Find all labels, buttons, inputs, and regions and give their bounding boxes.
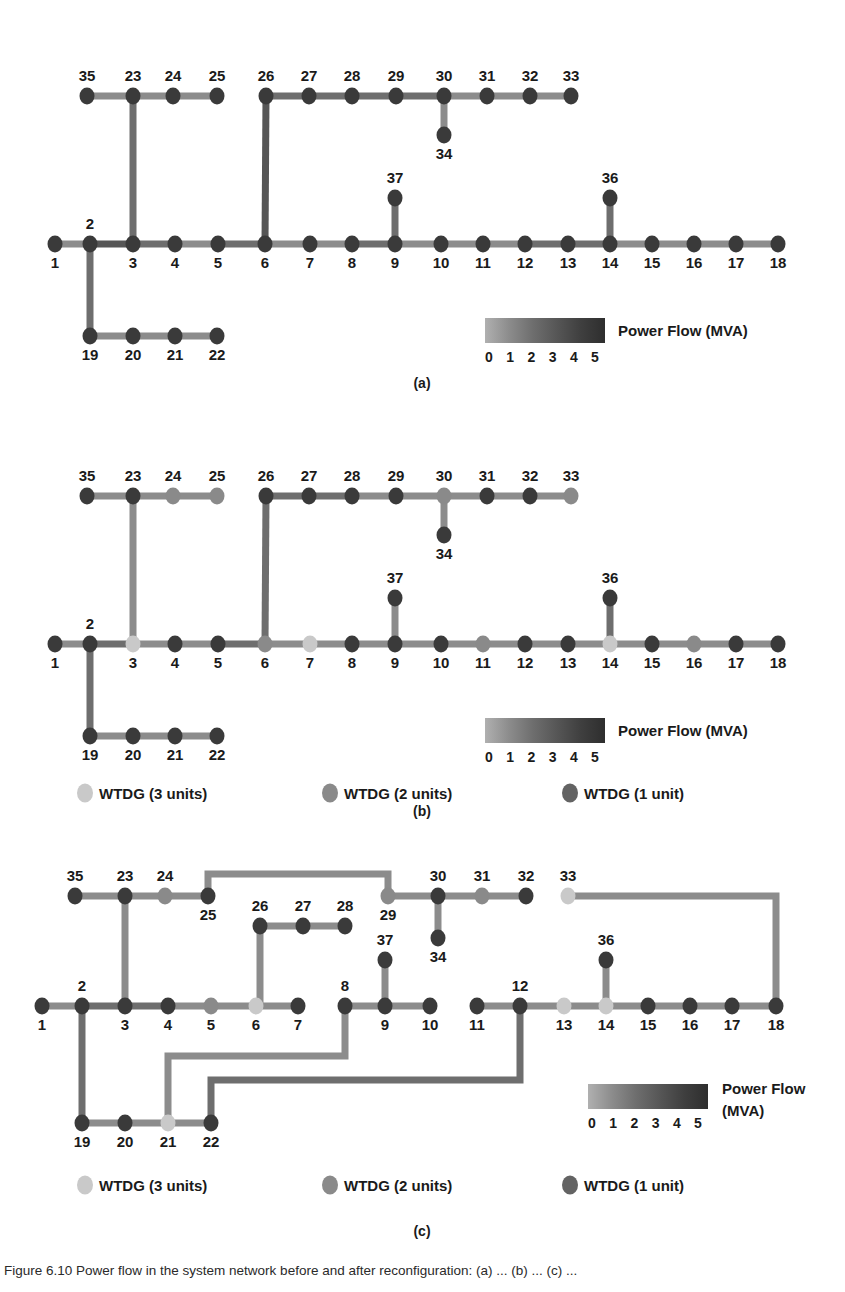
bus-node-9[interactable]: [388, 236, 403, 253]
bus-node-11[interactable]: [476, 636, 491, 653]
bus-node-25[interactable]: [201, 888, 216, 905]
bus-node-31[interactable]: [475, 888, 490, 905]
bus-node-33[interactable]: [564, 88, 579, 105]
bus-node-14[interactable]: [603, 636, 618, 653]
bus-node-18[interactable]: [771, 636, 786, 653]
bus-node-3[interactable]: [126, 236, 141, 253]
bus-node-14[interactable]: [603, 236, 618, 253]
bus-node-35[interactable]: [68, 888, 83, 905]
bus-node-23[interactable]: [126, 488, 141, 505]
bus-node-15[interactable]: [645, 236, 660, 253]
bus-node-11[interactable]: [470, 998, 485, 1015]
bus-node-26[interactable]: [253, 918, 268, 935]
bus-node-16[interactable]: [687, 236, 702, 253]
bus-node-15[interactable]: [641, 998, 656, 1015]
bus-node-30[interactable]: [431, 888, 446, 905]
bus-node-12[interactable]: [513, 998, 528, 1015]
bus-node-15[interactable]: [645, 636, 660, 653]
bus-node-10[interactable]: [434, 636, 449, 653]
bus-node-5[interactable]: [211, 636, 226, 653]
bus-node-18[interactable]: [769, 998, 784, 1015]
bus-node-35[interactable]: [80, 88, 95, 105]
bus-node-17[interactable]: [729, 636, 744, 653]
bus-node-8[interactable]: [345, 236, 360, 253]
bus-node-6[interactable]: [258, 236, 273, 253]
bus-node-31[interactable]: [480, 488, 495, 505]
bus-node-8[interactable]: [338, 998, 353, 1015]
bus-node-7[interactable]: [303, 236, 318, 253]
bus-node-32[interactable]: [519, 888, 534, 905]
bus-node-27[interactable]: [296, 918, 311, 935]
bus-node-29[interactable]: [389, 88, 404, 105]
bus-node-28[interactable]: [338, 918, 353, 935]
bus-node-23[interactable]: [126, 88, 141, 105]
bus-node-26[interactable]: [259, 488, 274, 505]
bus-node-4[interactable]: [161, 998, 176, 1015]
bus-node-16[interactable]: [687, 636, 702, 653]
bus-node-24[interactable]: [166, 88, 181, 105]
bus-node-24[interactable]: [158, 888, 173, 905]
bus-node-22[interactable]: [210, 728, 225, 745]
bus-node-19[interactable]: [83, 728, 98, 745]
bus-node-1[interactable]: [48, 236, 63, 253]
bus-node-12[interactable]: [518, 236, 533, 253]
bus-node-19[interactable]: [75, 1115, 90, 1132]
bus-node-1[interactable]: [35, 998, 50, 1015]
bus-node-27[interactable]: [302, 88, 317, 105]
bus-node-2[interactable]: [83, 236, 98, 253]
bus-node-33[interactable]: [561, 888, 576, 905]
bus-node-22[interactable]: [210, 328, 225, 345]
bus-node-6[interactable]: [258, 636, 273, 653]
bus-node-4[interactable]: [168, 236, 183, 253]
bus-node-34[interactable]: [431, 930, 446, 947]
bus-node-24[interactable]: [166, 488, 181, 505]
bus-node-37[interactable]: [378, 952, 393, 969]
bus-node-8[interactable]: [345, 636, 360, 653]
bus-node-37[interactable]: [388, 190, 403, 207]
bus-node-27[interactable]: [302, 488, 317, 505]
bus-node-36[interactable]: [603, 590, 618, 607]
bus-node-34[interactable]: [437, 127, 452, 144]
bus-node-35[interactable]: [80, 488, 95, 505]
bus-node-5[interactable]: [204, 998, 219, 1015]
bus-node-2[interactable]: [75, 998, 90, 1015]
bus-node-29[interactable]: [389, 488, 404, 505]
bus-node-32[interactable]: [523, 88, 538, 105]
bus-node-7[interactable]: [291, 998, 306, 1015]
bus-node-3[interactable]: [126, 636, 141, 653]
bus-node-28[interactable]: [345, 88, 360, 105]
bus-node-11[interactable]: [476, 236, 491, 253]
bus-node-25[interactable]: [210, 488, 225, 505]
bus-node-2[interactable]: [83, 636, 98, 653]
bus-node-20[interactable]: [126, 328, 141, 345]
bus-node-3[interactable]: [118, 998, 133, 1015]
bus-node-33[interactable]: [564, 488, 579, 505]
bus-node-21[interactable]: [168, 728, 183, 745]
bus-node-22[interactable]: [204, 1115, 219, 1132]
bus-node-17[interactable]: [725, 998, 740, 1015]
bus-node-16[interactable]: [683, 998, 698, 1015]
bus-node-13[interactable]: [561, 636, 576, 653]
bus-node-4[interactable]: [168, 636, 183, 653]
bus-node-7[interactable]: [303, 636, 318, 653]
bus-node-36[interactable]: [599, 952, 614, 969]
bus-node-28[interactable]: [345, 488, 360, 505]
bus-node-13[interactable]: [561, 236, 576, 253]
bus-node-10[interactable]: [434, 236, 449, 253]
bus-node-1[interactable]: [48, 636, 63, 653]
bus-node-6[interactable]: [249, 998, 264, 1015]
bus-node-32[interactable]: [523, 488, 538, 505]
bus-node-20[interactable]: [126, 728, 141, 745]
bus-node-18[interactable]: [771, 236, 786, 253]
bus-node-20[interactable]: [118, 1115, 133, 1132]
bus-node-34[interactable]: [437, 527, 452, 544]
bus-node-9[interactable]: [388, 636, 403, 653]
bus-node-23[interactable]: [118, 888, 133, 905]
bus-node-26[interactable]: [259, 88, 274, 105]
bus-node-30[interactable]: [437, 88, 452, 105]
bus-node-10[interactable]: [423, 998, 438, 1015]
bus-node-31[interactable]: [480, 88, 495, 105]
bus-node-36[interactable]: [603, 190, 618, 207]
bus-node-25[interactable]: [210, 88, 225, 105]
bus-node-19[interactable]: [83, 328, 98, 345]
